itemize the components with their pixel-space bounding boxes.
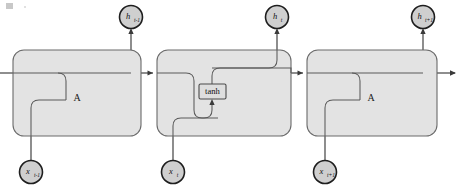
h-curr-base: h [273,11,277,21]
output-node-h-curr[interactable]: h t [266,6,289,29]
cell-prev-label: A [73,92,81,103]
input-node-x-prev[interactable]: x t-1 [20,161,43,184]
h-next-subscript: t+1 [425,17,433,23]
h-prev-base: h [126,11,130,21]
h-next-base: h [417,11,421,21]
output-node-h-next[interactable]: h t+1 [412,6,435,29]
cell-curr[interactable]: tanh [157,50,291,136]
x-prev-base: x [25,166,30,176]
x-curr-base: x [168,166,173,176]
cell-next-label: A [367,92,375,103]
diagram-canvas: A tanh A h [0,0,460,189]
input-node-x-next[interactable]: x t+1 [314,161,337,184]
output-risers [128,28,425,50]
x-next-subscript: t+1 [327,172,335,178]
cell-prev[interactable]: A [13,50,141,136]
arrowhead-cell2-to-cell3 [298,70,304,75]
input-node-x-curr[interactable]: x t [162,161,185,184]
x-next-base: x [319,166,324,176]
tanh-label: tanh [205,86,220,96]
scan-artifact [24,6,26,8]
arrowhead-cell1-to-cell2 [148,70,154,75]
output-node-h-prev[interactable]: h t-1 [120,6,143,29]
h-prev-subscript: t-1 [134,17,140,23]
arrowhead-out-right [450,70,456,75]
rnn-unrolled-diagram: A tanh A h [0,0,460,189]
input-risers [31,136,325,165]
x-prev-subscript: t-1 [34,172,40,178]
scan-artifact [6,3,13,9]
cell-next[interactable]: A [307,50,437,136]
x-curr-circle[interactable] [162,161,185,184]
